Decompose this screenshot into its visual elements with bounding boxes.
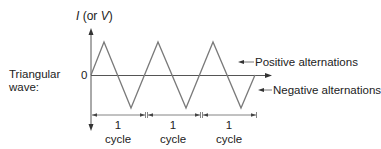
wave-type-label-line1: Triangular	[9, 68, 60, 81]
cycle-count: 1	[93, 118, 143, 132]
cycle-word: cycle	[148, 132, 198, 146]
cycle-word: cycle	[93, 132, 143, 146]
cycle-label: 1 cycle	[93, 118, 143, 146]
negative-pointer-arrow	[258, 88, 272, 92]
axis-title-paren: )	[109, 9, 113, 23]
wave-type-label-line2: wave:	[9, 81, 39, 94]
positive-pointer-arrow	[238, 60, 254, 64]
axis-title-voltage: V	[101, 9, 109, 23]
cycle-count: 1	[204, 118, 254, 132]
vertical-axis	[89, 28, 94, 131]
cycle-word: cycle	[204, 132, 254, 146]
negative-alternations-label: Negative alternations	[273, 84, 381, 97]
zero-label: 0	[81, 69, 87, 82]
axis-title-or: (or	[79, 9, 100, 23]
axis-title: I (or V)	[76, 10, 113, 23]
positive-alternations-label: Positive alternations	[255, 56, 358, 69]
cycle-label: 1 cycle	[148, 118, 198, 146]
cycle-count: 1	[148, 118, 198, 132]
cycle-label: 1 cycle	[204, 118, 254, 146]
